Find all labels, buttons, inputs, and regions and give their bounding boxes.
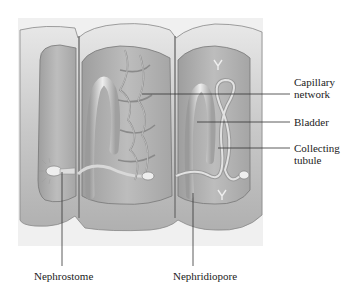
label-bladder: Bladder: [294, 116, 329, 128]
earthworm-nephridia-diagram: Capillary network Bladder Collecting tub…: [0, 0, 361, 296]
label-collecting-tubule-line2: tubule: [294, 154, 340, 166]
label-collecting-tubule: Collecting tubule: [294, 142, 340, 166]
label-nephrostome: Nephrostome: [34, 270, 93, 282]
label-capillary-network-line2: network: [294, 88, 335, 100]
label-capillary-network: Capillary network: [294, 76, 335, 100]
label-collecting-tubule-line1: Collecting: [294, 142, 340, 154]
label-capillary-network-line1: Capillary: [294, 76, 335, 88]
segment-1-coelom: [38, 45, 76, 202]
label-nephridiopore: Nephridiopore: [173, 270, 237, 282]
